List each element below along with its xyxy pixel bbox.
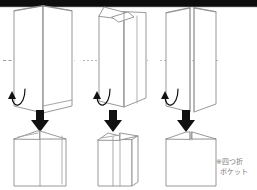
annotation-line-2: ポケット: [216, 167, 256, 177]
step-3-top-sheet: [166, 8, 216, 112]
annotation-line-1: ※四つ折: [216, 157, 256, 167]
step-3-result-body: [166, 139, 216, 186]
step-2-top-sheet: [99, 7, 146, 107]
step-2-front-panel: [124, 12, 146, 107]
step-3-left-panel: [166, 8, 190, 112]
step-3-result-top-right: [192, 132, 216, 139]
step-3-result-top-left: [166, 132, 190, 139]
step-3-bottom-result: [166, 132, 216, 186]
step-2-bottom-result: [98, 133, 138, 186]
instruction-diagram-page: ※四つ折 ポケット: [0, 0, 257, 190]
step-1-top-sheet: [14, 6, 72, 113]
down-arrow-2: [104, 110, 122, 132]
step-2-result-side: [132, 136, 138, 186]
step-2-result-body: [98, 140, 132, 186]
step-1-left-panel: [14, 6, 43, 113]
down-arrow-group: [31, 110, 195, 132]
down-arrow-3: [177, 110, 195, 132]
step-1-right-panel: [43, 6, 72, 113]
step-1-bottom-result: [14, 131, 66, 186]
step-2-back-panel: [99, 12, 124, 107]
step-3-right-panel: [194, 8, 216, 112]
down-arrow-1: [31, 110, 49, 132]
annotation-note: ※四つ折 ポケット: [216, 157, 256, 177]
